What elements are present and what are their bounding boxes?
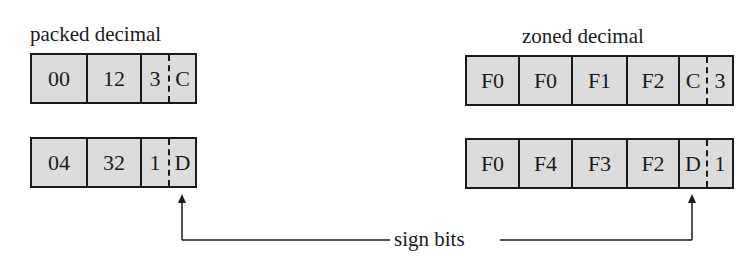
arrowhead-icon (178, 194, 186, 203)
arrowhead-icon (688, 194, 696, 203)
sign-bits-connector (0, 0, 743, 273)
sign-bits-label: sign bits (394, 229, 465, 250)
